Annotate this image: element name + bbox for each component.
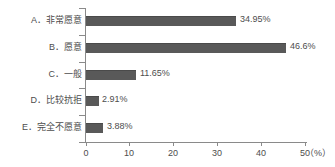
bar-value-label: 2.91% bbox=[102, 94, 128, 105]
axis-unit-label: （%） bbox=[305, 148, 331, 159]
bar bbox=[86, 43, 286, 53]
bar-value-label: 46.6% bbox=[290, 41, 316, 52]
bar-value-label: 34.95% bbox=[240, 14, 271, 25]
value-axis-tick bbox=[261, 142, 262, 146]
category-label: C．一般 bbox=[0, 69, 82, 80]
bar-row: A．非常愿意 34.95% bbox=[0, 8, 335, 35]
category-label: B．愿意 bbox=[0, 42, 82, 53]
bar-row: C．一般 11.65% bbox=[0, 62, 335, 89]
bar-value-label: 11.65% bbox=[140, 68, 170, 79]
value-axis-label: 20 bbox=[158, 148, 188, 159]
bar-row: E．完全不愿意 3.88% bbox=[0, 115, 335, 142]
value-axis-label: 10 bbox=[114, 148, 144, 159]
category-axis-tick bbox=[79, 142, 85, 143]
value-axis-tick bbox=[129, 142, 130, 146]
value-axis-line bbox=[85, 142, 307, 143]
category-label: D．比较抗拒 bbox=[0, 95, 82, 106]
value-axis-tick bbox=[86, 142, 87, 146]
bar-value-label: 3.88% bbox=[107, 121, 133, 132]
value-axis-tick bbox=[305, 142, 306, 146]
bar bbox=[86, 123, 103, 133]
value-axis-label: 0 bbox=[71, 148, 101, 159]
bar bbox=[86, 16, 236, 26]
bar-row: D．比较抗拒 2.91% bbox=[0, 88, 335, 115]
bar bbox=[86, 70, 136, 80]
value-axis-label: 40 bbox=[246, 148, 276, 159]
value-axis-label: 30 bbox=[202, 148, 232, 159]
value-axis-tick bbox=[173, 142, 174, 146]
bar-row: B．愿意 46.6% bbox=[0, 35, 335, 62]
category-label: A．非常愿意 bbox=[0, 15, 82, 26]
value-axis-tick bbox=[217, 142, 218, 146]
bar bbox=[86, 96, 99, 106]
bar-chart: A．非常愿意 34.95% B．愿意 46.6% C．一般 11.65% D．比… bbox=[0, 0, 335, 167]
category-label: E．完全不愿意 bbox=[0, 122, 82, 133]
